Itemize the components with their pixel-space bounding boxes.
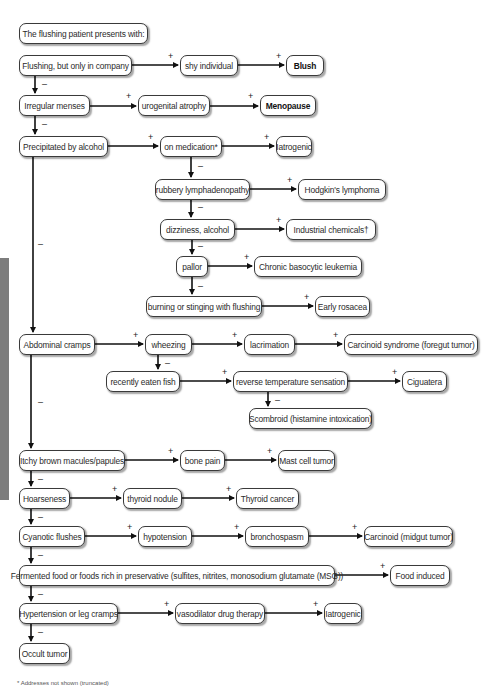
node-flushing-company: Flushing, but only in company xyxy=(19,55,132,76)
node-rubbery-lymphadenopathy: rubbery lymphadenopathy xyxy=(155,179,250,200)
no-sign: – xyxy=(38,513,43,522)
outcome-iatrogenic: Iatrogenic xyxy=(276,136,312,157)
no-sign: – xyxy=(275,396,280,405)
outcome-iatrogenic-2: Iatrogenic xyxy=(324,603,362,624)
yes-sign: + xyxy=(264,133,269,142)
flowchart-canvas: The flushing patient presents with: Flus… xyxy=(0,0,488,686)
no-sign: – xyxy=(198,242,203,251)
node-recently-eaten-fish: recently eaten fish xyxy=(106,371,180,392)
outcome-early-rosacea: Early rosacea xyxy=(315,296,370,317)
no-sign: – xyxy=(198,162,203,171)
yes-sign: + xyxy=(148,133,153,142)
node-bronchospasm: bronchospasm xyxy=(245,526,309,547)
outcome-carcinoid-foregut: Carcinoid syndrome (foregut tumor) xyxy=(344,334,478,355)
no-sign: – xyxy=(42,120,47,129)
yes-sign: + xyxy=(276,52,281,61)
node-fermented-food: Fermented food or foods rich in preserva… xyxy=(19,565,335,586)
yes-sign: + xyxy=(226,485,231,494)
node-lacrimation: lacrimation xyxy=(244,334,295,355)
outcome-menopause: Menopause xyxy=(260,95,316,116)
node-reverse-temperature: reverse temperature sensation xyxy=(233,371,348,392)
yes-sign: + xyxy=(380,562,385,571)
outcome-ciguatera: Ciguatera xyxy=(402,371,447,392)
node-cyanotic-flushes: Cyanotic flushes xyxy=(19,526,85,547)
outcome-blush: Blush xyxy=(286,55,324,76)
no-sign: – xyxy=(38,590,43,599)
node-itchy-macules: Itchy brown macules/papules xyxy=(19,450,125,471)
no-sign: – xyxy=(165,359,170,368)
yes-sign: + xyxy=(248,92,253,101)
node-hypotension: hypotension xyxy=(138,526,192,547)
node-irregular-menses: Irregular menses xyxy=(19,95,90,116)
node-shy-individual: shy individual xyxy=(180,55,238,76)
node-abdominal-cramps: Abdominal cramps xyxy=(19,334,95,355)
node-hypertension-leg-cramps: Hypertension or leg cramps xyxy=(19,603,118,624)
no-sign: – xyxy=(198,203,203,212)
node-urogenital-atrophy: urogenital atrophy xyxy=(138,95,210,116)
no-sign: – xyxy=(38,475,43,484)
no-sign: – xyxy=(42,80,47,89)
outcome-scombroid: Scombroid (histamine intoxication) xyxy=(249,408,372,429)
outcome-chronic-basocytic-leukemia: Chronic basocytic leukemia xyxy=(254,256,362,277)
node-thyroid-nodule: thyroid nodule xyxy=(123,488,182,509)
node-hoarseness: Hoarseness xyxy=(19,488,70,509)
no-sign: – xyxy=(38,240,43,249)
no-sign: – xyxy=(38,628,43,637)
node-vasodilator-therapy: vasodilator drug therapy xyxy=(175,603,265,624)
footnote: * Addresses not shown (truncated) xyxy=(17,680,109,686)
no-sign: – xyxy=(38,398,43,407)
outcome-hodgkins-lymphoma: Hodgkin's lymphoma xyxy=(298,179,386,200)
yes-sign: + xyxy=(276,216,281,225)
yes-sign: + xyxy=(234,523,239,532)
node-wheezing: wheezing xyxy=(145,334,192,355)
node-on-medication: on medication* xyxy=(160,136,222,157)
yes-sign: + xyxy=(304,293,309,302)
outcome-food-induced: Food induced xyxy=(390,565,450,586)
yes-sign: + xyxy=(287,176,292,185)
yes-sign: + xyxy=(232,331,237,340)
yes-sign: + xyxy=(222,368,227,377)
yes-sign: + xyxy=(313,600,318,609)
yes-sign: + xyxy=(168,447,173,456)
yes-sign: + xyxy=(168,52,173,61)
node-burning-stinging: burning or stinging with flushing xyxy=(146,296,262,317)
yes-sign: + xyxy=(126,92,131,101)
node-dizziness-alcohol: dizziness, alcohol xyxy=(160,219,235,240)
yes-sign: + xyxy=(164,600,169,609)
node-pallor: pallor xyxy=(176,256,208,277)
yes-sign: + xyxy=(333,331,338,340)
no-sign: – xyxy=(198,282,203,291)
outcome-occult-tumor: Occult tumor xyxy=(19,643,70,664)
outcome-thyroid-cancer: Thyroid cancer xyxy=(236,488,299,509)
node-precipitated-alcohol: Precipitated by alcohol xyxy=(19,136,108,157)
yes-sign: + xyxy=(352,523,357,532)
start-node: The flushing patient presents with: xyxy=(19,23,148,44)
yes-sign: + xyxy=(267,447,272,456)
outcome-carcinoid-midgut: Carcinoid (midgut tumor) xyxy=(364,526,453,547)
outcome-industrial-chemicals: Industrial chemicals† xyxy=(286,219,376,240)
yes-sign: + xyxy=(244,253,249,262)
yes-sign: + xyxy=(133,331,138,340)
no-sign: – xyxy=(38,551,43,560)
yes-sign: + xyxy=(112,485,117,494)
yes-sign: + xyxy=(127,523,132,532)
node-bone-pain: bone pain xyxy=(180,450,225,471)
outcome-mast-cell-tumor: Mast cell tumor xyxy=(278,450,335,471)
yes-sign: + xyxy=(392,368,397,377)
